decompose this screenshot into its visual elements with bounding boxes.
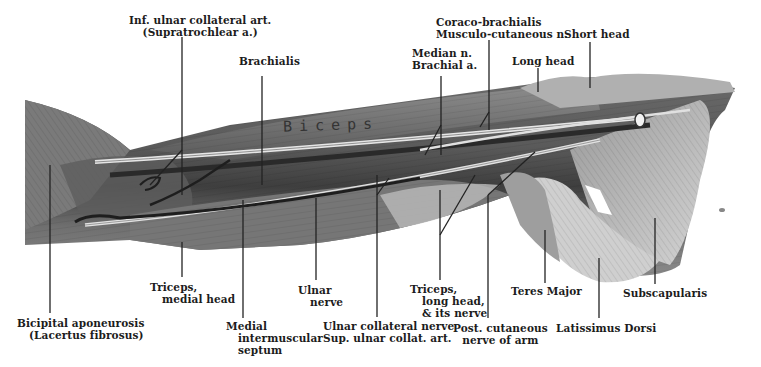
axillary-vessel-cut [635,113,645,127]
label-post-cutaneous-nerve: Post. cutaneous nerve of arm [453,322,548,346]
label-short-head: Short head [564,28,630,40]
biceps-inscription: Biceps [283,114,380,135]
label-triceps-long-head: Triceps, long head, & its nerve [410,283,487,319]
label-long-head: Long head [512,55,574,67]
label-ulnar-nerve: Ulnar nerve [298,284,343,308]
arm-illustration [0,0,761,367]
label-subscapularis: Subscapularis [623,287,707,299]
label-median-nerve-brachial-artery: Median n. Brachial a. [412,47,477,71]
label-coracobrachialis-musculocutaneous: Coraco-brachialis Musculo-cutaneous n. [436,16,568,40]
label-inf-ulnar-collateral-artery: Inf. ulnar collateral art. (Supratrochle… [129,14,271,38]
label-medial-intermuscular-septum: Medial intermuscular septum [226,320,323,356]
label-ulnar-collateral-nerve: Ulnar collateral nerve Sup. ulnar collat… [323,320,454,344]
label-latissimus-dorsi: Latissimus Dorsi [556,322,656,334]
label-bicipital-aponeurosis: Bicipital aponeurosis (Lacertus fibrosus… [17,317,144,341]
label-triceps-medial-head: Triceps, medial head [150,281,235,305]
label-teres-major: Teres Major [511,285,582,297]
anatomy-figure: Biceps Inf. ulnar collateral art. (Supra… [0,0,761,367]
label-brachialis: Brachialis [239,55,300,67]
